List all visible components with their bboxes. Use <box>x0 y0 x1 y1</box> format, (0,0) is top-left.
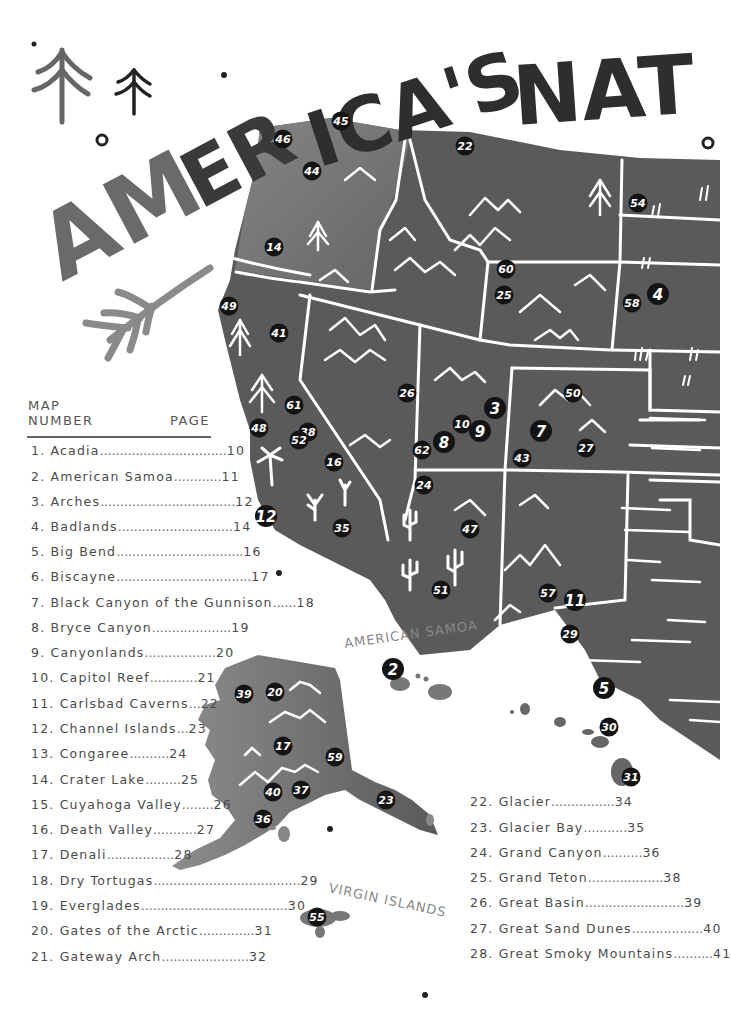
park-marker-17[interactable]: 17 <box>274 737 293 756</box>
legend-item: 6. Biscayne.............................… <box>31 569 270 584</box>
marker-number: 29 <box>562 628 578 641</box>
park-marker-11[interactable]: 11 <box>564 589 586 611</box>
legend-item-page: 34 <box>615 794 633 809</box>
legend-item-dots: ........... <box>583 820 627 835</box>
legend-item-dots: .......... <box>673 946 713 961</box>
legend-item-name: Badlands <box>51 519 118 534</box>
legend-item: 3. Arches...............................… <box>31 494 254 509</box>
park-marker-46[interactable]: 46 <box>274 130 293 149</box>
park-marker-50[interactable]: 50 <box>564 384 583 403</box>
legend-item-page: 16 <box>243 544 261 559</box>
legend-item-name: Crater Lake <box>60 772 146 787</box>
legend-item-page: 28 <box>174 847 192 862</box>
legend-item-name: Congaree <box>60 746 130 761</box>
marker-number: 35 <box>334 522 350 535</box>
park-marker-58[interactable]: 58 <box>623 294 642 313</box>
marker-number: 40 <box>264 786 281 799</box>
marker-number: 5 <box>599 680 609 698</box>
park-marker-35[interactable]: 35 <box>333 519 352 538</box>
legend-item-name: Glacier Bay <box>499 820 584 835</box>
legend-item-dots: .................. <box>632 921 704 936</box>
legend-item-name: Great Smoky Mountains <box>499 946 674 961</box>
park-marker-36[interactable]: 36 <box>254 810 273 829</box>
legend-item-dots: .................... <box>152 620 231 635</box>
legend-item-page: 23 <box>189 721 207 736</box>
park-marker-62[interactable]: 62 <box>413 441 432 460</box>
park-marker-4[interactable]: 4 <box>647 283 669 305</box>
legend-item-name: Biscayne <box>51 569 117 584</box>
park-marker-23[interactable]: 23 <box>377 791 396 810</box>
park-marker-10[interactable]: 10 <box>453 415 472 434</box>
park-marker-52[interactable]: 52 <box>290 431 309 450</box>
legend-item: 28. Great Smoky Mountains..........41 <box>470 946 731 961</box>
legend-item-number: 15. <box>31 797 60 812</box>
park-marker-3[interactable]: 3 <box>484 397 506 419</box>
park-marker-61[interactable]: 61 <box>285 396 304 415</box>
legend-item: 21. Gateway Arch......................32 <box>31 949 267 964</box>
park-marker-43[interactable]: 43 <box>513 449 532 468</box>
park-marker-14[interactable]: 14 <box>265 238 284 257</box>
park-marker-22[interactable]: 22 <box>456 137 475 156</box>
park-marker-27[interactable]: 27 <box>577 439 596 458</box>
marker-number: 31 <box>623 771 638 784</box>
legend-item: 12. Channel Islands...23 <box>31 721 207 736</box>
park-marker-40[interactable]: 40 <box>264 783 283 802</box>
park-marker-5[interactable]: 5 <box>593 677 615 699</box>
park-marker-7[interactable]: 7 <box>530 420 552 442</box>
park-marker-30[interactable]: 30 <box>600 718 619 737</box>
legend-item-number: 10. <box>31 670 60 685</box>
park-marker-9[interactable]: 9 <box>469 420 491 442</box>
park-marker-39[interactable]: 39 <box>235 685 254 704</box>
legend-item: 9. Canyonlands..................20 <box>31 645 234 660</box>
legend-item: 25. Grand Teton...................38 <box>470 870 682 885</box>
park-marker-20[interactable]: 20 <box>266 683 285 702</box>
legend-item-number: 2. <box>31 469 51 484</box>
park-marker-31[interactable]: 31 <box>622 768 641 787</box>
park-marker-29[interactable]: 29 <box>561 625 580 644</box>
park-marker-2[interactable]: 2 <box>382 658 404 680</box>
park-marker-60[interactable]: 60 <box>497 260 516 279</box>
marker-number: 27 <box>578 442 594 455</box>
marker-number: 9 <box>475 423 485 441</box>
legend-item-page: 31 <box>255 923 273 938</box>
park-marker-55[interactable]: 55 <box>308 908 327 927</box>
legend-item-dots: ..................................... <box>153 873 300 888</box>
legend-item-page: 20 <box>216 645 234 660</box>
park-marker-25[interactable]: 25 <box>495 286 514 305</box>
park-marker-47[interactable]: 47 <box>461 520 480 539</box>
legend-item-number: 23. <box>470 820 499 835</box>
park-marker-41[interactable]: 41 <box>270 324 289 343</box>
legend-item-dots: ................ <box>551 794 615 809</box>
legend-item-name: Carlsbad Caverns <box>60 696 189 711</box>
legend-item-page: 39 <box>684 895 702 910</box>
legend-item-page: 19 <box>231 620 249 635</box>
park-marker-57[interactable]: 57 <box>539 584 558 603</box>
park-marker-45[interactable]: 45 <box>332 112 351 131</box>
legend-item-page: 14 <box>233 519 251 534</box>
park-marker-51[interactable]: 51 <box>432 581 451 600</box>
legend-item-page: 35 <box>627 820 645 835</box>
legend-item: 26. Great Basin.........................… <box>470 895 702 910</box>
marker-number: 61 <box>286 399 301 412</box>
park-marker-12[interactable]: 12 <box>255 505 277 527</box>
marker-number: 16 <box>326 456 342 469</box>
marker-number: 30 <box>601 721 617 734</box>
legend-item-name: Canyonlands <box>51 645 145 660</box>
park-marker-44[interactable]: 44 <box>303 162 322 181</box>
legend-item-number: 7. <box>31 595 51 610</box>
park-marker-59[interactable]: 59 <box>326 748 345 767</box>
park-marker-16[interactable]: 16 <box>325 453 344 472</box>
legend-item-page: 27 <box>197 822 215 837</box>
park-marker-49[interactable]: 49 <box>220 297 239 316</box>
legend-item-number: 20. <box>31 923 60 938</box>
legend-item: 2. American Samoa............11 <box>31 469 240 484</box>
park-marker-24[interactable]: 24 <box>415 476 434 495</box>
marker-number: 8 <box>439 434 449 452</box>
park-marker-37[interactable]: 37 <box>292 781 311 800</box>
park-marker-48[interactable]: 48 <box>250 419 269 438</box>
park-marker-54[interactable]: 54 <box>629 194 648 213</box>
legend-item-number: 14. <box>31 772 60 787</box>
park-marker-8[interactable]: 8 <box>433 431 455 453</box>
park-marker-26[interactable]: 26 <box>398 384 417 403</box>
legend-item-dots: ............................. <box>118 519 233 534</box>
